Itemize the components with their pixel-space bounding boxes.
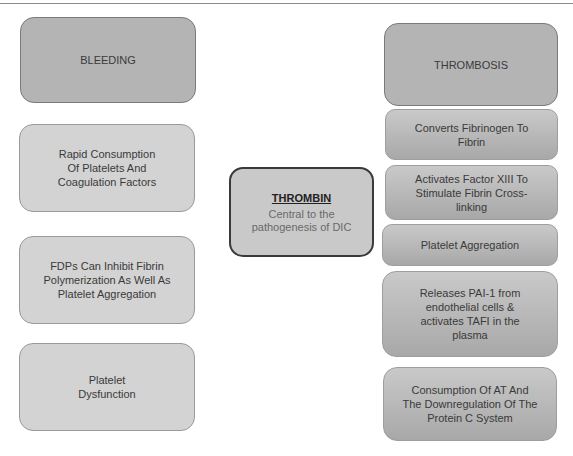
thrombin-title: THROMBIN: [272, 191, 331, 205]
thrombosis-header-label: THROMBOSIS: [434, 58, 508, 72]
thrombosis-effect-label: Platelet Aggregation: [421, 238, 519, 252]
bleeding-cause-box: Rapid Consumption Of Platelets And Coagu…: [19, 124, 195, 212]
bleeding-cause-label: Rapid Consumption Of Platelets And Coagu…: [56, 147, 158, 189]
bleeding-header-box: BLEEDING: [20, 17, 196, 103]
thrombosis-effect-box: Platelet Aggregation: [382, 224, 558, 266]
thrombosis-header-box: THROMBOSIS: [384, 23, 558, 106]
thrombosis-effect-box: Consumption Of AT And The Downregulation…: [383, 367, 557, 441]
bleeding-cause-box: Platelet Dysfunction: [19, 343, 195, 431]
thrombosis-effect-box: Releases PAI-1 from endothelial cells & …: [382, 271, 558, 357]
thrombosis-effect-label: Releases PAI-1 from endothelial cells & …: [413, 286, 527, 342]
bleeding-cause-box: FDPs Can Inhibit Fibrin Polymerization A…: [19, 236, 195, 324]
thrombosis-effect-label: Consumption Of AT And The Downregulation…: [402, 383, 538, 425]
thrombin-center-box: THROMBIN Central to the pathogenesis of …: [229, 167, 374, 257]
bleeding-cause-label: FDPs Can Inhibit Fibrin Polymerization A…: [36, 259, 178, 301]
thrombosis-effect-label: Activates Factor XIII To Stimulate Fibri…: [400, 172, 543, 214]
bleeding-cause-label: Platelet Dysfunction: [72, 373, 142, 401]
thrombin-subtitle: Central to the pathogenesis of DIC: [251, 208, 352, 234]
thrombosis-effect-box: Converts Fibrinogen To Fibrin: [385, 109, 558, 160]
bleeding-header-label: BLEEDING: [80, 53, 136, 67]
top-divider: [0, 3, 573, 4]
thrombosis-effect-box: Activates Factor XIII To Stimulate Fibri…: [385, 165, 558, 220]
thrombosis-effect-label: Converts Fibrinogen To Fibrin: [404, 121, 539, 149]
